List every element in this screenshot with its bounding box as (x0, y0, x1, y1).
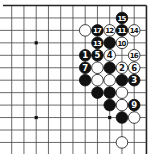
white-stone-icon (116, 137, 128, 149)
move-number: 1 (82, 50, 88, 60)
white-stone (92, 62, 104, 74)
move-number: 3 (131, 75, 137, 85)
white-stone-icon (92, 62, 104, 74)
white-stone-icon (128, 112, 140, 124)
black-stone-move-5: 5 (92, 50, 104, 62)
white-stone-move-4: 4 (104, 50, 116, 62)
white-stone-icon (116, 87, 128, 99)
go-board: 151712111413101541672639 (0, 0, 153, 154)
white-stone (92, 74, 104, 86)
white-stone-move-6: 6 (128, 62, 140, 74)
star-point (108, 116, 111, 119)
white-stone (116, 87, 128, 99)
white-stone-move-16: 16 (128, 50, 140, 62)
black-stone-move-9: 9 (128, 99, 140, 111)
black-stone (116, 74, 128, 86)
move-number: 10 (117, 40, 126, 48)
move-number: 14 (130, 27, 139, 35)
move-number: 16 (130, 52, 139, 60)
move-number: 13 (93, 40, 102, 48)
white-stone-icon (92, 74, 104, 86)
white-stone-move-10: 10 (116, 37, 128, 49)
black-stone-icon (104, 37, 116, 49)
black-stone (79, 74, 91, 86)
black-stone-icon (116, 74, 128, 86)
black-stone-icon (79, 74, 91, 86)
black-stone-move-7: 7 (79, 62, 91, 74)
move-number: 2 (119, 63, 125, 73)
black-stone-icon (104, 62, 116, 74)
black-stone-move-3: 3 (128, 74, 140, 86)
move-number: 9 (131, 100, 137, 110)
white-stone-move-14: 14 (128, 25, 140, 37)
move-number: 11 (117, 27, 126, 35)
white-stone-move-12: 12 (104, 25, 116, 37)
move-number: 12 (105, 27, 114, 35)
move-number: 4 (107, 50, 113, 60)
move-number: 15 (117, 15, 126, 23)
move-number: 5 (94, 50, 100, 60)
black-stone-move-11: 11 (116, 25, 128, 37)
black-stone (104, 99, 116, 111)
move-number: 17 (93, 27, 102, 35)
white-stone (79, 25, 91, 37)
black-stone (104, 87, 116, 99)
white-stone (104, 74, 116, 86)
black-stone (116, 112, 128, 124)
white-stone (128, 112, 140, 124)
black-stone-move-1: 1 (79, 50, 91, 62)
black-stone-icon (104, 87, 116, 99)
black-stone (104, 37, 116, 49)
black-stone-icon (116, 112, 128, 124)
white-stone-icon (116, 99, 128, 111)
star-point (35, 116, 38, 119)
move-number: 6 (131, 63, 137, 73)
black-stone-icon (104, 99, 116, 111)
black-stone-icon (92, 87, 104, 99)
white-stone (116, 137, 128, 149)
black-stone-move-13: 13 (92, 37, 104, 49)
move-number: 7 (82, 63, 88, 73)
black-stone (104, 62, 116, 74)
white-stone-icon (79, 25, 91, 37)
white-stone-icon (104, 74, 116, 86)
star-point (35, 41, 38, 44)
black-stone-move-17: 17 (92, 25, 104, 37)
white-stone (116, 99, 128, 111)
black-stone (92, 87, 104, 99)
white-stone-move-2: 2 (116, 62, 128, 74)
black-stone-move-15: 15 (116, 12, 128, 24)
